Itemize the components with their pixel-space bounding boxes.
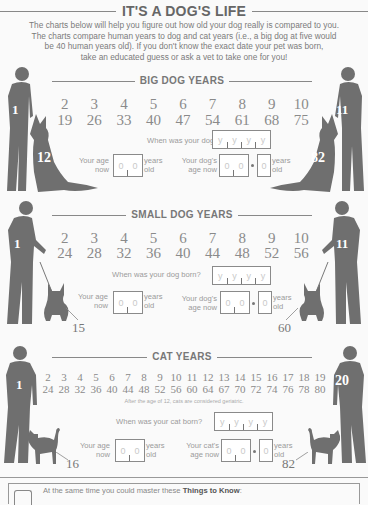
human-year-value: 44 (198, 245, 228, 262)
pet-age-years-input[interactable]: 0 0 (219, 154, 249, 177)
digit-placeholder: 0 (258, 161, 270, 171)
pet-year-value: 5 (139, 96, 169, 113)
human-year-value: 52 (257, 245, 287, 262)
label-line: years (144, 156, 163, 165)
human-year-value: 70 (232, 383, 248, 395)
your-age-label: Your age now (78, 441, 110, 459)
digit-divider (127, 170, 128, 176)
years-old-label: years old (146, 441, 165, 459)
label-line: old (146, 450, 165, 459)
digit-divider (233, 170, 234, 176)
pet-age-decimal-input[interactable]: 0 (257, 154, 271, 177)
footer-rule (0, 477, 368, 478)
birth-year-input[interactable]: y y y y (212, 266, 271, 285)
human-year-value: 28 (80, 245, 110, 262)
year-digit-placeholder: y (242, 271, 256, 281)
things-to-know-box: At the same time you could master these … (8, 483, 360, 504)
year-digit-placeholder: y (227, 271, 241, 281)
pet-year-value: 3 (80, 96, 110, 113)
birth-year-input[interactable]: y y y y (212, 130, 271, 149)
human-year-value: 40 (139, 112, 169, 129)
heading-label: SMALL DOG YEARS (126, 209, 237, 220)
birth-year-input[interactable]: y y y y (214, 412, 273, 431)
human-year-value: 28 (56, 383, 72, 395)
digit-divider (227, 278, 228, 284)
label-line: years (272, 156, 291, 165)
pet-year-value: 18 (296, 371, 312, 383)
digit-placeholder: 0 (259, 298, 271, 308)
pet-age-label: Your dog's age now (172, 294, 217, 312)
human-years-row: 24 28 32 36 40 44 48 52 56 60 64 67 70 7… (40, 383, 328, 395)
human-year-value: 52 (152, 383, 168, 395)
human-year-value: 24 (40, 383, 56, 395)
footer-text-prefix: At the same time you could master these (43, 486, 183, 495)
pet-age-decimal-input[interactable]: 0 (258, 291, 272, 314)
pet-year-value: 19 (312, 371, 328, 383)
human-year-value: 48 (136, 383, 152, 395)
digit-placeholder: 0 (114, 161, 128, 171)
person-age-number: 1 (14, 236, 21, 252)
label-line: old (274, 450, 293, 459)
your-age-input[interactable]: 0 0 (113, 154, 143, 177)
your-age-input[interactable]: 0 0 (115, 439, 145, 462)
digit-divider (255, 278, 256, 284)
digit-divider (235, 455, 236, 461)
pet-year-value: 14 (232, 371, 248, 383)
label-line: old (273, 302, 292, 311)
years-old-label: years old (144, 156, 163, 174)
pet-year-value: 4 (72, 371, 88, 383)
label-line: Your age (76, 292, 108, 301)
born-question-label: When was your dog born? (112, 270, 201, 279)
label-line: Your age (77, 156, 109, 165)
digit-divider (257, 424, 258, 430)
pet-age-decimal-input[interactable]: 0 (259, 439, 273, 462)
digit-placeholder: 0 (234, 161, 248, 171)
digit-divider (241, 142, 242, 148)
title-row: IT'S A DOG'S LIFE (0, 3, 368, 19)
label-line: age now (174, 450, 219, 459)
your-age-input[interactable]: 0 0 (113, 291, 143, 314)
digit-divider (229, 424, 230, 430)
pet-year-value: 11 (184, 371, 200, 383)
section-heading: CAT YEARS (52, 351, 312, 363)
year-digit-placeholder: y (229, 417, 243, 427)
pet-year-value: 12 (200, 371, 216, 383)
label-line: years (274, 441, 293, 450)
label-line: Your age (78, 441, 110, 450)
pet-years-row: 2 3 4 5 6 7 8 9 10 (50, 96, 316, 113)
pet-year-value: 9 (152, 371, 168, 383)
pet-age-label: Your dog's age now (172, 156, 217, 174)
pet-age-years-input[interactable]: 0 0 (221, 439, 251, 462)
years-old-label: years old (272, 156, 291, 174)
decimal-point (252, 302, 255, 305)
pet-year-value: 10 (168, 371, 184, 383)
years-old-label: years old (144, 292, 163, 310)
year-digit-placeholder: y (215, 417, 229, 427)
year-digit-placeholder: y (227, 135, 241, 145)
pet-year-value: 16 (264, 371, 280, 383)
digit-placeholder: 0 (260, 446, 272, 456)
pet-year-value: 15 (248, 371, 264, 383)
human-year-value: 40 (168, 245, 198, 262)
pet-age-number: 60 (278, 320, 291, 336)
digit-divider (129, 455, 130, 461)
digit-placeholder: 0 (220, 161, 234, 171)
digit-divider (241, 278, 242, 284)
digit-divider (127, 307, 128, 313)
pet-age-years-input[interactable]: 0 0 (220, 291, 250, 314)
label-line: Your dog's (172, 156, 217, 165)
pet-age-label: Your cat's age now (174, 441, 219, 459)
human-year-value: 80 (312, 383, 328, 395)
label-line: age now (172, 165, 217, 174)
label-line: Your dog's (172, 294, 217, 303)
intro-text: The charts below will help you figure ou… (0, 20, 368, 62)
human-year-value: 19 (50, 112, 80, 129)
pet-year-value: 7 (198, 96, 228, 113)
years-old-label: years old (274, 441, 293, 459)
label-line: now (76, 301, 108, 310)
human-years-row: 19 26 33 40 47 54 61 68 75 (50, 112, 316, 129)
human-year-value: 61 (227, 112, 257, 129)
pet-year-value: 7 (120, 371, 136, 383)
born-question-label: When was your cat born? (116, 417, 202, 426)
human-year-value: 60 (184, 383, 200, 395)
